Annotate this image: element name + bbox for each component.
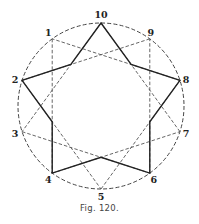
vertex-label-10: 10 bbox=[94, 9, 108, 20]
solid-star-outline bbox=[22, 23, 180, 173]
vertex-label-9: 9 bbox=[147, 27, 154, 38]
vertex-label-3: 3 bbox=[12, 128, 19, 139]
solid-star-path bbox=[22, 23, 180, 173]
circumscribed-circle bbox=[18, 23, 184, 189]
vertex-label-7: 7 bbox=[183, 128, 190, 139]
vertex-label-2: 2 bbox=[12, 74, 19, 85]
star-polygon-figure: 12345678910 bbox=[0, 0, 199, 224]
vertex-label-8: 8 bbox=[183, 74, 190, 85]
figure-caption: Fig. 120. bbox=[0, 203, 199, 213]
dashed-chords bbox=[22, 23, 180, 189]
vertex-label-5: 5 bbox=[98, 191, 105, 202]
vertex-label-6: 6 bbox=[150, 174, 157, 185]
vertex-label-1: 1 bbox=[45, 27, 52, 38]
vertex-labels: 12345678910 bbox=[12, 9, 190, 202]
vertex-label-4: 4 bbox=[45, 174, 52, 185]
